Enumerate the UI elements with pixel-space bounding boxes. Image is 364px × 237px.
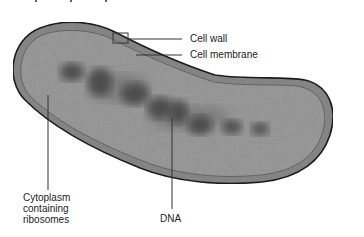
- top-edge-marks: [35, 0, 107, 2]
- cell-membrane-label: Cell membrane: [190, 49, 258, 60]
- bacterial-cell-diagram: Cell wall Cell membrane Cytoplasm contai…: [0, 0, 364, 237]
- cytoplasm-label: Cytoplasm containing ribosomes: [23, 192, 70, 225]
- cell-wall-label: Cell wall: [190, 33, 227, 44]
- dna-label: DNA: [160, 213, 181, 224]
